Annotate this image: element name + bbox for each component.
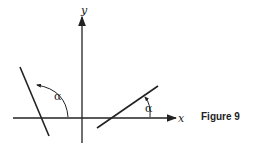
y-axis-label: y: [80, 4, 88, 17]
left-line: [20, 67, 49, 136]
figure-caption: Figure 9: [201, 111, 240, 122]
left-angle-arc-icon: [37, 85, 68, 117]
diagram: α α y x: [0, 0, 257, 148]
left-angle-label: α: [54, 90, 62, 103]
figure-canvas: α α y x Figure 9: [0, 0, 257, 148]
right-angle-label: α: [145, 102, 153, 115]
x-axis-label: x: [178, 112, 185, 125]
